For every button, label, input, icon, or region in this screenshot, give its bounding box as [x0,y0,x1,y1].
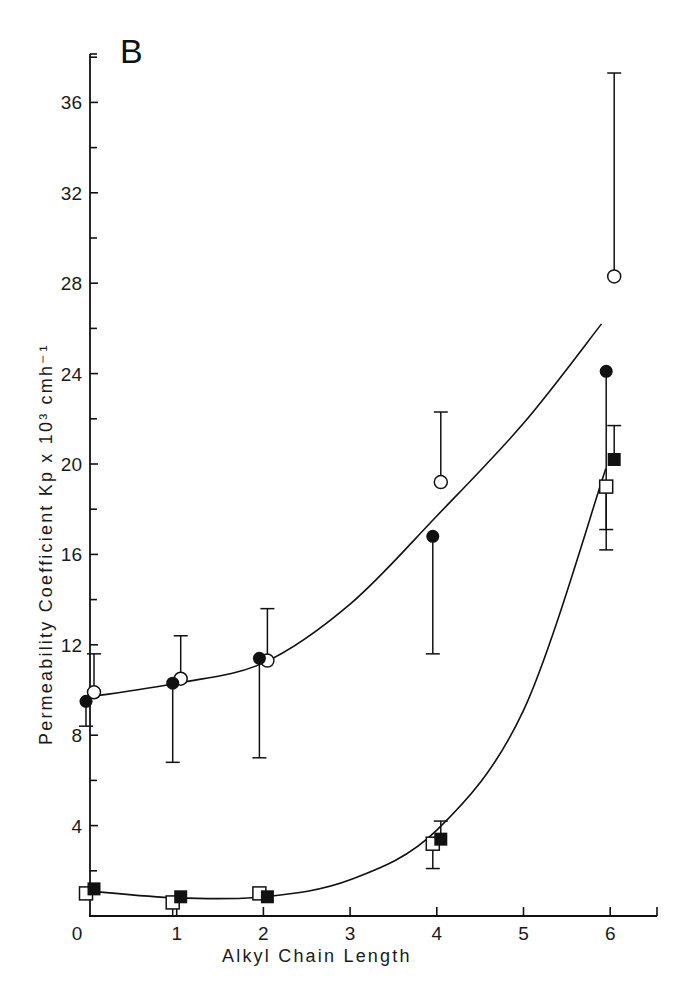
y-tick-label: 36 [61,92,82,113]
filled-square-marker [174,890,187,903]
y-tick-label: 16 [61,544,82,565]
y-tick-label: 8 [71,725,82,746]
filled-square-marker [88,882,101,895]
x-tick-label: 1 [171,923,182,944]
x-axis-label: Alkyl Chain Length [222,946,412,966]
filled-square-marker [261,890,274,903]
y-tick-label: 28 [61,273,82,294]
y-tick-label: 12 [61,635,82,656]
filled-square-marker [608,453,621,466]
x-tick-label: 3 [345,923,356,944]
filled-circle-marker [253,652,266,665]
filled-circle-marker [166,677,179,690]
filled-circle-marker [426,530,439,543]
y-tick-label: 24 [61,364,83,385]
panel-label: B [120,32,143,70]
open-circle-marker [608,270,621,283]
x-tick-label: 0 [72,923,83,944]
x-tick-label: 6 [605,923,616,944]
error-bars [79,73,621,916]
y-axis-label: Permeability Coefficient Kp x 10³ cmh⁻¹ [36,343,56,745]
data-markers [80,270,621,909]
open-circle-marker [434,476,447,489]
filled-circle-marker [80,695,93,708]
y-ticks: 4812162024283236 [61,57,98,871]
chart: B 4812162024283236 0123456 Alkyl Chain L… [0,0,689,995]
filled-square-marker [434,833,447,846]
y-tick-label: 20 [61,454,82,475]
x-axis: 0123456 [72,907,657,944]
x-ticks: 0123456 [72,907,616,944]
y-axis: 4812162024283236 [61,54,98,916]
x-tick-label: 5 [518,923,529,944]
y-tick-label: 32 [61,183,82,204]
x-tick-label: 2 [258,923,269,944]
open-square-marker [600,480,613,493]
fit-curve [90,324,602,697]
x-tick-label: 4 [432,923,443,944]
filled-circle-marker [600,365,613,378]
y-tick-label: 4 [71,816,82,837]
fit-curves [90,324,606,899]
